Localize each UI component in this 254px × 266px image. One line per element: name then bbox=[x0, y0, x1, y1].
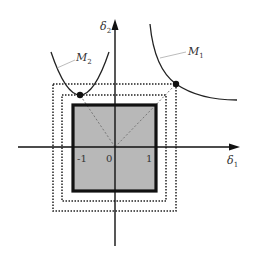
x-axis-label: δ1 bbox=[227, 154, 238, 169]
tick-label-0: 0 bbox=[106, 153, 112, 164]
tick-label-neg1: -1 bbox=[77, 153, 87, 164]
stability-region-diagram: M2 M1 δ2 δ1 -1 0 1 bbox=[0, 0, 254, 266]
y-axis-arrowhead-icon bbox=[112, 19, 119, 30]
m1-label: M1 bbox=[187, 45, 204, 60]
m2-leader-line bbox=[57, 60, 75, 68]
m2-tangency-point bbox=[77, 92, 83, 98]
m2-label: M2 bbox=[75, 51, 92, 66]
x-axis-arrowhead-icon bbox=[229, 144, 240, 151]
m1-leader-line bbox=[160, 52, 186, 58]
tick-label-1: 1 bbox=[146, 153, 152, 164]
m1-tangency-point bbox=[173, 81, 179, 87]
y-axis-label: δ2 bbox=[100, 20, 111, 35]
curve-m1 bbox=[150, 24, 237, 100]
